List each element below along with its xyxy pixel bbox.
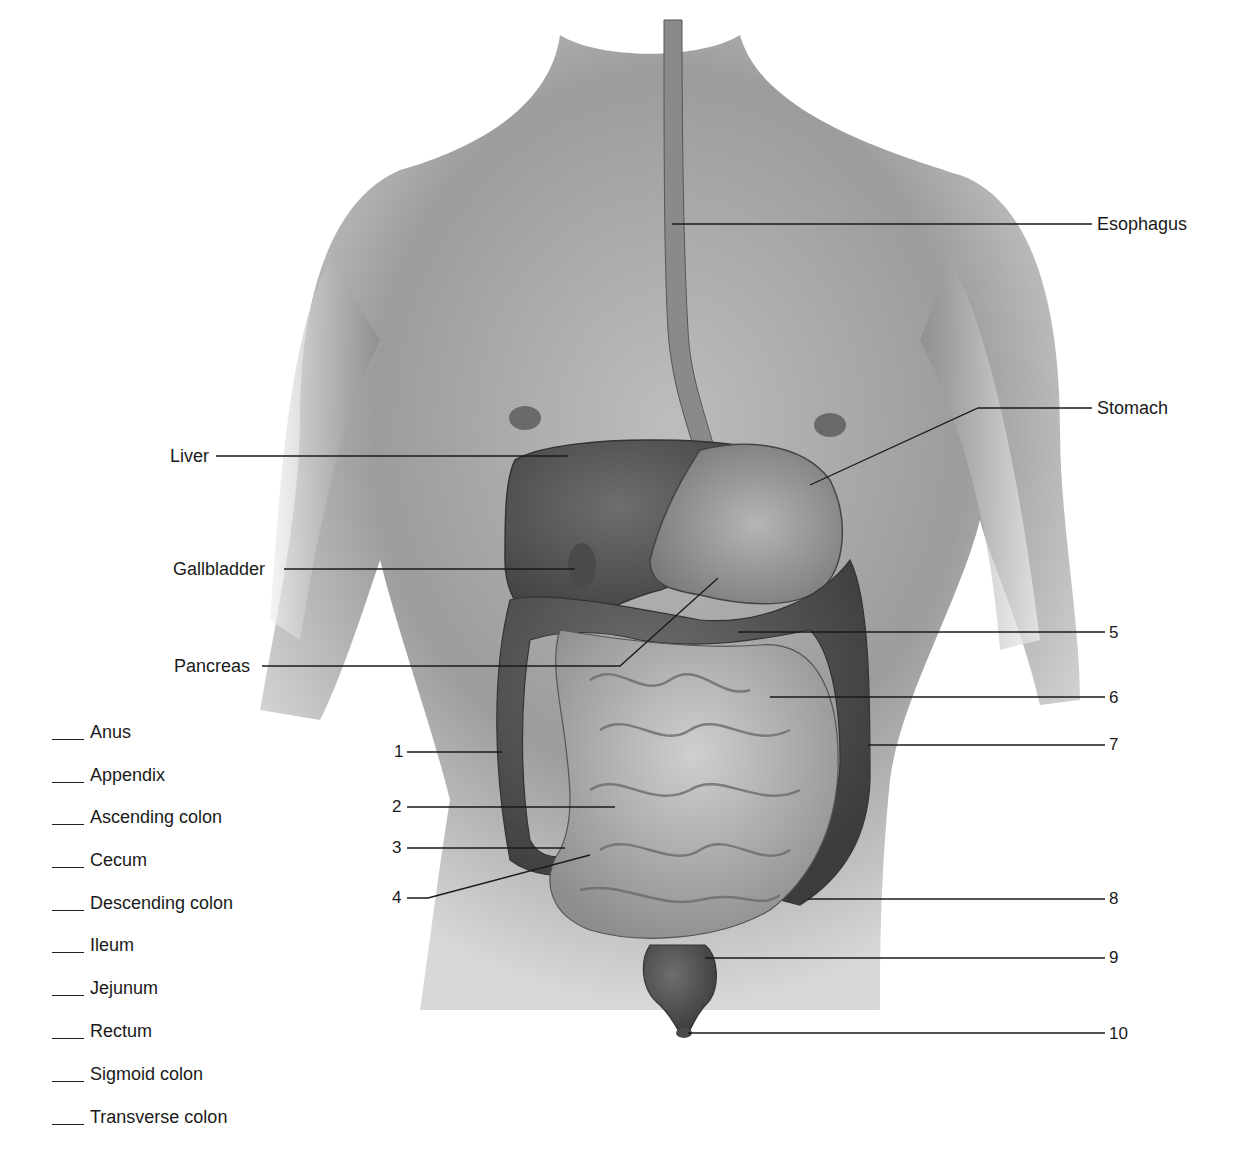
- label-gallbladder: Gallbladder: [173, 559, 265, 579]
- answer-blank[interactable]: [52, 1124, 84, 1125]
- callout-8: 8: [1109, 889, 1118, 909]
- callout-6: 6: [1109, 688, 1118, 708]
- answer-blank[interactable]: [52, 995, 84, 996]
- label-liver: Liver: [170, 446, 209, 466]
- word-bank-item: Ascending colon: [52, 807, 222, 827]
- word-bank-item: Appendix: [52, 765, 165, 785]
- callout-9: 9: [1109, 948, 1118, 968]
- label-pancreas: Pancreas: [174, 656, 250, 676]
- word-bank-item: Transverse colon: [52, 1107, 227, 1127]
- answer-blank[interactable]: [52, 782, 84, 783]
- callout-7: 7: [1109, 735, 1118, 755]
- callout-3: 3: [392, 838, 401, 858]
- callout-5: 5: [1109, 623, 1118, 643]
- gallbladder-organ: [568, 543, 596, 587]
- word-bank-item: Anus: [52, 722, 131, 742]
- callout-2: 2: [392, 797, 401, 817]
- digestive-system-illustration: [0, 0, 1245, 1164]
- word-bank-item: Jejunum: [52, 978, 158, 998]
- callout-10: 10: [1109, 1024, 1128, 1044]
- answer-blank[interactable]: [52, 1081, 84, 1082]
- word-bank-item: Ileum: [52, 935, 134, 955]
- word-bank-item: Sigmoid colon: [52, 1064, 203, 1084]
- answer-blank[interactable]: [52, 1038, 84, 1039]
- callout-1: 1: [394, 742, 403, 762]
- answer-blank[interactable]: [52, 910, 84, 911]
- label-esophagus: Esophagus: [1097, 214, 1187, 234]
- word-bank-item: Rectum: [52, 1021, 152, 1041]
- answer-blank[interactable]: [52, 824, 84, 825]
- word-bank-item: Descending colon: [52, 893, 233, 913]
- label-stomach: Stomach: [1097, 398, 1168, 418]
- answer-blank[interactable]: [52, 952, 84, 953]
- answer-blank[interactable]: [52, 739, 84, 740]
- answer-blank[interactable]: [52, 867, 84, 868]
- callout-4: 4: [392, 888, 401, 908]
- word-bank-item: Cecum: [52, 850, 147, 870]
